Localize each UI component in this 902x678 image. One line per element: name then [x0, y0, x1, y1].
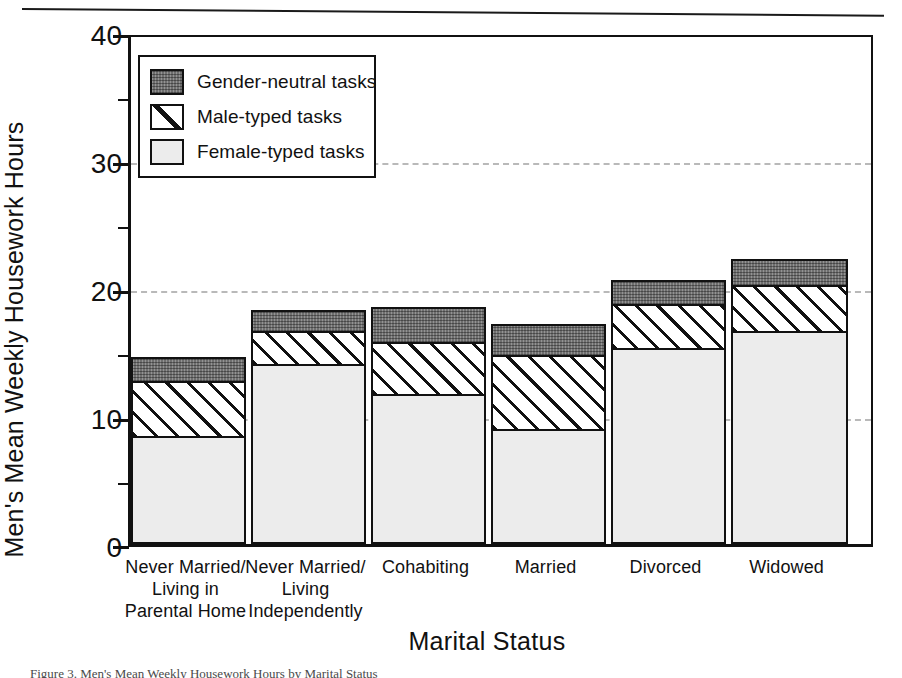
- bar-segment-male-typed: [131, 381, 246, 438]
- x-tick-label-line: Cohabiting: [358, 557, 493, 579]
- x-tick-label-line: Never Married/: [118, 557, 253, 579]
- legend: Gender-neutral tasks Male-typed tasks Fe…: [138, 55, 376, 178]
- bar-segment-male-typed: [251, 331, 366, 366]
- bar-never-married-independent[interactable]: [251, 310, 366, 544]
- bar-segment-male-typed: [731, 285, 848, 333]
- bar-cohabiting[interactable]: [371, 307, 486, 544]
- bar-segment-female-typed: [131, 436, 246, 544]
- bar-segment-gender-neutral: [731, 259, 848, 287]
- top-horizontal-rule: [22, 8, 884, 17]
- bar-widowed[interactable]: [731, 259, 848, 544]
- y-tick-minor-15: [118, 355, 129, 357]
- figure-caption: Figure 3. Men's Mean Weekly Housework Ho…: [30, 666, 450, 678]
- x-tick-label-never-married-independent: Never Married/ Living Independently: [238, 557, 373, 623]
- y-tick-major-40: [113, 35, 129, 38]
- legend-swatch-gender-neutral-icon: [150, 69, 184, 95]
- x-tick-label-line: Independently: [238, 601, 373, 623]
- bar-segment-female-typed: [611, 348, 726, 544]
- x-tick-label-line: Parental Home: [118, 601, 253, 623]
- legend-label-male-typed: Male-typed tasks: [197, 106, 342, 128]
- x-axis-title: Marital Status: [0, 627, 902, 656]
- y-tick-major-10: [113, 419, 129, 422]
- legend-swatch-male-typed-icon: [150, 104, 184, 130]
- y-tick-major-0: [113, 546, 129, 549]
- x-tick-label-never-married-parental-home: Never Married/ Living in Parental Home: [118, 557, 253, 623]
- bar-segment-female-typed: [731, 331, 848, 544]
- x-axis-title-text: Marital Status: [408, 627, 565, 655]
- bar-segment-gender-neutral: [611, 280, 726, 306]
- y-tick-minor-35: [118, 99, 129, 101]
- bar-segment-gender-neutral: [491, 324, 606, 357]
- x-tick-label-divorced: Divorced: [598, 557, 733, 579]
- x-tick-label-line: Married: [478, 557, 613, 579]
- x-tick-label-line: Widowed: [718, 557, 855, 579]
- legend-item-gender-neutral[interactable]: Gender-neutral tasks: [150, 66, 364, 97]
- y-axis-title: Men's Mean Weekly Housework Hours: [0, 0, 34, 678]
- bar-never-married-parental-home[interactable]: [131, 357, 246, 544]
- legend-item-female-typed[interactable]: Female-typed tasks: [150, 136, 364, 167]
- x-tick-label-married: Married: [478, 557, 613, 579]
- bar-segment-gender-neutral: [371, 307, 486, 344]
- y-tick-major-30: [113, 163, 129, 166]
- x-tick-label-line: Divorced: [598, 557, 733, 579]
- bar-segment-gender-neutral: [131, 357, 246, 383]
- y-tick-minor-25: [118, 227, 129, 229]
- bar-segment-male-typed: [611, 304, 726, 350]
- bar-segment-female-typed: [371, 394, 486, 544]
- y-tick-major-20: [113, 291, 129, 294]
- bar-segment-male-typed: [371, 342, 486, 396]
- x-tick-label-line: Living: [238, 579, 373, 601]
- figure-container: Men's Mean Weekly Housework Hours 40 30 …: [0, 0, 902, 678]
- bar-married[interactable]: [491, 324, 606, 544]
- bar-segment-female-typed: [251, 364, 366, 544]
- x-tick-label-line: Never Married/: [238, 557, 373, 579]
- y-tick-minor-5: [118, 483, 129, 485]
- x-tick-label-line: Living in: [118, 579, 253, 601]
- legend-item-male-typed[interactable]: Male-typed tasks: [150, 101, 364, 132]
- bar-segment-gender-neutral: [251, 310, 366, 333]
- bar-divorced[interactable]: [611, 280, 726, 544]
- x-tick-label-cohabiting: Cohabiting: [358, 557, 493, 579]
- bar-segment-male-typed: [491, 355, 606, 431]
- legend-label-female-typed: Female-typed tasks: [197, 141, 365, 163]
- legend-label-gender-neutral: Gender-neutral tasks: [197, 71, 376, 93]
- bar-segment-female-typed: [491, 429, 606, 544]
- x-tick-label-widowed: Widowed: [718, 557, 855, 579]
- y-axis-title-text: Men's Mean Weekly Housework Hours: [0, 121, 29, 557]
- legend-swatch-female-typed-icon: [150, 139, 184, 165]
